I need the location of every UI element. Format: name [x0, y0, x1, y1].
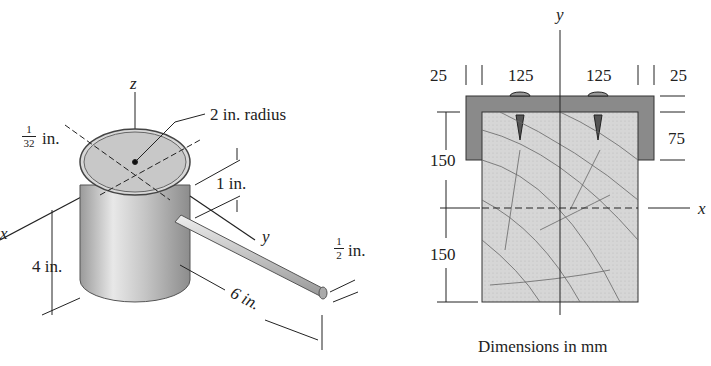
dimensions-caption: Dimensions in mm	[478, 338, 607, 355]
y-axis-label: y	[262, 228, 270, 245]
dim-right-span: 125	[586, 67, 612, 84]
thickness-fraction: 132	[22, 124, 36, 149]
dim-left-flange: 25	[430, 67, 447, 84]
radius-label: 2 in. radius	[210, 106, 286, 123]
dim-left-span: 125	[508, 67, 534, 84]
dim-upper-half: 150	[430, 152, 456, 169]
rod-offset-label: 1 in.	[216, 175, 246, 192]
section-x-axis-label: x	[698, 200, 706, 217]
dim-lower-half: 150	[430, 246, 456, 263]
section-y-axis-label: y	[556, 6, 564, 23]
thickness-unit: in.	[42, 130, 59, 147]
dim-right-flange: 25	[670, 67, 687, 84]
dim-lip-depth: 75	[668, 130, 685, 147]
diagram-canvas	[0, 0, 711, 366]
x-axis-label: x	[0, 225, 8, 242]
z-axis-label: z	[130, 75, 137, 92]
rod-diameter-unit: in.	[348, 242, 365, 259]
rod-diameter-fraction: 12	[334, 236, 344, 261]
beam-section-figure	[437, 30, 690, 315]
height-label: 4 in.	[32, 258, 62, 275]
